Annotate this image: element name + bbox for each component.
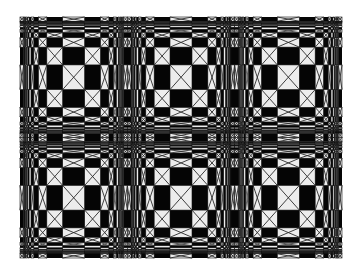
op-art-pattern bbox=[0, 0, 359, 274]
canvas: Bulging checkerboard op-art pattern bbox=[0, 0, 359, 274]
